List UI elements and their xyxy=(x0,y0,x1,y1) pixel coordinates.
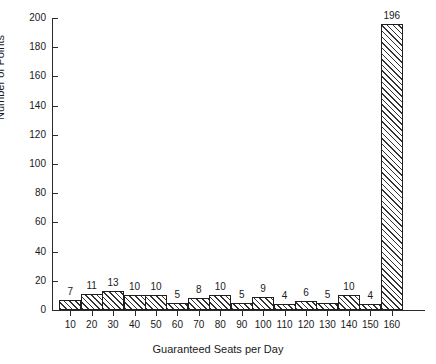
x-axis-line xyxy=(52,310,425,311)
histogram-bar xyxy=(381,24,403,310)
y-tick xyxy=(53,310,58,311)
y-tick-label: 100 xyxy=(6,159,46,169)
x-tick xyxy=(285,311,286,316)
y-tick-label: 120 xyxy=(6,130,46,140)
y-tick-label: 200 xyxy=(6,13,46,23)
x-tick xyxy=(199,311,200,316)
y-tick xyxy=(53,164,58,165)
x-tick xyxy=(156,311,157,316)
y-tick-label: 60 xyxy=(6,217,46,227)
x-tick xyxy=(370,311,371,316)
x-tick xyxy=(113,311,114,316)
y-tick xyxy=(53,47,58,48)
bar-value-label: 196 xyxy=(372,11,412,21)
histogram-bar xyxy=(231,303,253,310)
x-axis-title: Guaranteed Seats per Day xyxy=(0,343,436,355)
y-tick-label: 0 xyxy=(6,305,46,315)
histogram-bar xyxy=(102,291,124,310)
x-tick-label: 160 xyxy=(372,320,412,330)
x-tick xyxy=(392,311,393,316)
histogram-bar xyxy=(124,295,146,310)
histogram-bar xyxy=(81,294,103,310)
histogram-chart: Number of Points Guaranteed Seats per Da… xyxy=(0,0,436,364)
x-tick xyxy=(177,311,178,316)
y-tick xyxy=(53,106,58,107)
x-tick xyxy=(242,311,243,316)
x-tick xyxy=(70,311,71,316)
y-tick-label: 40 xyxy=(6,247,46,257)
histogram-bar xyxy=(316,303,338,310)
histogram-bar xyxy=(59,300,81,310)
x-tick xyxy=(327,311,328,316)
histogram-bar xyxy=(359,304,381,310)
y-tick-label: 160 xyxy=(6,71,46,81)
x-tick xyxy=(135,311,136,316)
histogram-bar xyxy=(188,298,210,310)
y-tick-label: 80 xyxy=(6,188,46,198)
y-tick-label: 140 xyxy=(6,101,46,111)
histogram-bar xyxy=(295,301,317,310)
plot-area: 020406080100120140160180200 102030405060… xyxy=(52,18,425,311)
y-tick xyxy=(53,193,58,194)
y-tick xyxy=(53,252,58,253)
histogram-bar xyxy=(274,304,296,310)
y-tick-label: 20 xyxy=(6,276,46,286)
histogram-bar xyxy=(166,303,188,310)
y-tick xyxy=(53,222,58,223)
y-tick xyxy=(53,76,58,77)
y-tick xyxy=(53,18,58,19)
x-tick xyxy=(92,311,93,316)
x-tick xyxy=(306,311,307,316)
y-tick xyxy=(53,281,58,282)
x-tick xyxy=(349,311,350,316)
y-tick xyxy=(53,135,58,136)
x-tick xyxy=(220,311,221,316)
x-tick xyxy=(263,311,264,316)
y-tick-label: 180 xyxy=(6,42,46,52)
